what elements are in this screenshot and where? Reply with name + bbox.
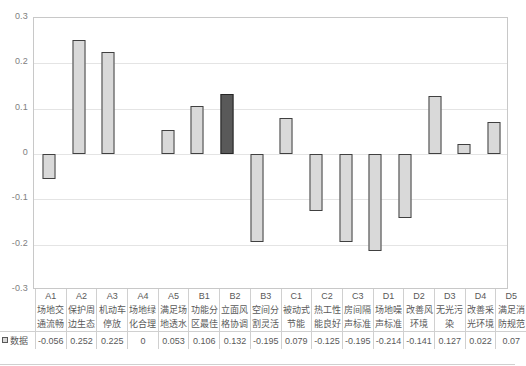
table-cell-value-C2: -0.125 (312, 332, 343, 350)
table-cell-code-C3: C3 (342, 289, 373, 303)
bar-slot-A1 (34, 18, 64, 288)
table-cell-name1-B2: 立面风 (220, 303, 251, 317)
bar-slot-A2 (64, 18, 94, 288)
bar-slot-D2 (390, 18, 420, 288)
table-cell-code-C2: C2 (312, 289, 343, 303)
table-cell-name1-A5: 满足场 (158, 303, 189, 317)
bar-A3[interactable] (102, 52, 115, 154)
bar-A2[interactable] (72, 40, 85, 154)
table-cell-name1-D1: 场地噪 (373, 303, 404, 317)
bar-D2[interactable] (399, 154, 412, 218)
table-cell-code-C1: C1 (281, 289, 312, 303)
bar-series-数据 (34, 18, 507, 288)
bar-slot-A4 (123, 18, 153, 288)
table-cell-code-B1: B1 (189, 289, 220, 303)
bar-slot-C3 (331, 18, 361, 288)
bar-slot-A5 (153, 18, 183, 288)
bar-C3[interactable] (339, 154, 352, 242)
bar-B2[interactable] (220, 94, 233, 154)
table-cell-code-A2: A2 (66, 289, 97, 303)
bar-C2[interactable] (310, 154, 323, 211)
table-cell-code-D4: D4 (465, 289, 496, 303)
bar-slot-D4 (450, 18, 480, 288)
table-cell-name2-B2: 格协调 (220, 317, 251, 332)
table-cell-name2-A2: 边生态 (66, 317, 97, 332)
table-cell-code-A4: A4 (128, 289, 159, 303)
table-row-values: 数据 -0.0560.2520.22500.0530.1060.132-0.19… (0, 332, 526, 350)
table-row-category-names-line2: 通流畅边生态停放化合理地透水区最佳格协调割灵活节能能良好声标准声标准环境染光环境… (0, 317, 526, 332)
bar-slot-D1 (361, 18, 391, 288)
data-table: A1A2A3A4A5B1B2B3C1C2C3D1D2D3D4D5 场地交保护周机… (0, 289, 526, 349)
table-cell-value-B3: -0.195 (250, 332, 281, 350)
table-cell-code-D3: D3 (434, 289, 465, 303)
table-cell-code-B2: B2 (220, 289, 251, 303)
y-tick-label-0.3: 0.3 (0, 12, 28, 21)
table-cell-name1-B3: 空间分 (250, 303, 281, 317)
table-row-category-codes: A1A2A3A4A5B1B2B3C1C2C3D1D2D3D4D5 (0, 289, 526, 303)
table-cell-name1-C3: 房间隔 (342, 303, 373, 317)
table-cell-name2-D2: 环境 (404, 317, 435, 332)
bar-B1[interactable] (191, 106, 204, 154)
table-cell-name1-A2: 保护周 (66, 303, 97, 317)
table-cell-name2-C2: 能良好 (312, 317, 343, 332)
table-bottom-rule (0, 364, 515, 365)
table-cell-value-A3: 0.225 (97, 332, 128, 350)
table-cell-name1-C2: 热工性 (312, 303, 343, 317)
bar-slot-C1 (272, 18, 302, 288)
bar-slot-B1 (182, 18, 212, 288)
table-cell-value-D3: 0.127 (434, 332, 465, 350)
legend-label: 数据 (10, 335, 28, 347)
table-cell-name2-D1: 声标准 (373, 317, 404, 332)
table-cell-name1-A3: 机动车 (97, 303, 128, 317)
row-header-spacer-1 (0, 289, 36, 303)
table-cell-value-D5: 0.07 (496, 332, 526, 350)
y-tick-label--0.1: -0.1 (0, 193, 28, 202)
table-cell-value-A2: 0.252 (66, 332, 97, 350)
table-cell-name2-D4: 光环境 (465, 317, 496, 332)
table-cell-name2-B1: 区最佳 (189, 317, 220, 332)
y-tick-label-0.2: 0.2 (0, 57, 28, 66)
table-cell-code-D5: D5 (496, 289, 526, 303)
bar-D3[interactable] (428, 96, 441, 154)
table-cell-name2-D5: 防规范 (496, 317, 526, 332)
table-cell-name1-D2: 改善风 (404, 303, 435, 317)
table-cell-code-B3: B3 (250, 289, 281, 303)
bar-slot-B3 (242, 18, 272, 288)
table-cell-name1-B1: 功能分 (189, 303, 220, 317)
bar-C1[interactable] (280, 118, 293, 154)
legend-row-header: 数据 (0, 332, 36, 350)
table-cell-name2-A4: 化合理 (128, 317, 159, 332)
table-cell-name1-D3: 无光污 (434, 303, 465, 317)
y-tick-label-0.1: 0.1 (0, 103, 28, 112)
table-cell-name2-A3: 停放 (97, 317, 128, 332)
bar-slot-A3 (93, 18, 123, 288)
table-cell-value-C1: 0.079 (281, 332, 312, 350)
bar-slot-D5 (479, 18, 509, 288)
table-cell-name1-D4: 改善采 (465, 303, 496, 317)
table-row-category-names-line1: 场地交保护周机动车场地绿满足场功能分立面风空间分被动式热工性房间隔场地噪改善风无… (0, 303, 526, 317)
table-cell-code-A1: A1 (36, 289, 67, 303)
table-cell-value-D2: -0.141 (404, 332, 435, 350)
bar-D4[interactable] (458, 144, 471, 154)
table-cell-value-C3: -0.195 (342, 332, 373, 350)
y-tick-label-0: 0 (0, 148, 28, 157)
table-cell-value-A4: 0 (128, 332, 159, 350)
table-cell-value-B2: 0.132 (220, 332, 251, 350)
table-cell-name1-A4: 场地绿 (128, 303, 159, 317)
table-cell-value-A5: 0.053 (158, 332, 189, 350)
table-cell-value-B1: 0.106 (189, 332, 220, 350)
bar-B3[interactable] (250, 154, 263, 242)
table-cell-name2-C1: 节能 (281, 317, 312, 332)
table-cell-code-A3: A3 (97, 289, 128, 303)
table-cell-name2-A1: 通流畅 (36, 317, 67, 332)
bar-A5[interactable] (161, 130, 174, 154)
table-cell-value-D1: -0.214 (373, 332, 404, 350)
legend-swatch-icon (2, 337, 8, 343)
table-cell-name2-D3: 染 (434, 317, 465, 332)
bar-D1[interactable] (369, 154, 382, 251)
table-cell-name1-C1: 被动式 (281, 303, 312, 317)
bar-D5[interactable] (488, 122, 501, 154)
bar-A1[interactable] (42, 154, 55, 179)
table-cell-name1-A1: 场地交 (36, 303, 67, 317)
